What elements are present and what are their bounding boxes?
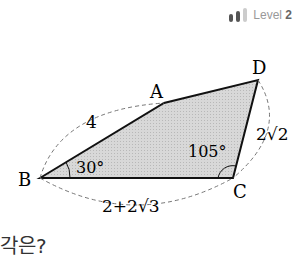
label-B: B	[18, 169, 31, 190]
label-D: D	[252, 57, 266, 78]
length-AB: 4	[86, 112, 97, 132]
label-C: C	[233, 181, 247, 202]
angle-B: 30°	[76, 158, 104, 177]
length-CD: 2√2	[256, 124, 288, 144]
label-A: A	[149, 81, 164, 102]
cut-off-text: 각은?	[0, 230, 47, 259]
angle-C: 105°	[188, 142, 227, 161]
length-BC: 2+2√3	[102, 196, 160, 216]
